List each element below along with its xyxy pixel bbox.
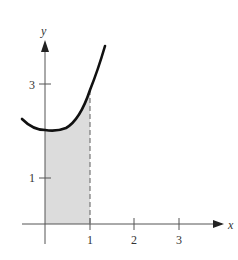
area-under-curve-figure: 1 2 3 1 3 x y <box>0 0 238 260</box>
x-axis-arrow-icon <box>213 220 224 228</box>
y-tick-label-3: 3 <box>29 78 35 92</box>
x-tick-label-2: 2 <box>131 233 137 247</box>
x-tick-label-3: 3 <box>176 233 182 247</box>
y-axis-arrow-icon <box>41 40 49 52</box>
x-axis-label: x <box>227 218 234 232</box>
y-axis-label: y <box>40 24 47 38</box>
y-tick-label-1: 1 <box>29 171 35 185</box>
shaded-region <box>45 90 90 224</box>
x-tick-label-1: 1 <box>87 233 93 247</box>
